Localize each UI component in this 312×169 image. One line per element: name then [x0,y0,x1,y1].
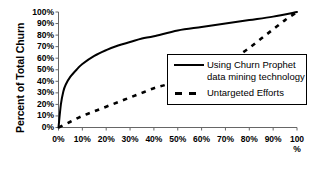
legend-solid-line-icon [174,59,204,71]
legend: Using Churn Prophet data mining technolo… [167,54,307,105]
legend-label-churn-prophet: Using Churn Prophet data mining technolo… [207,59,307,82]
churn-chart: Percent of Total Churn 0%10%20%30%40%50%… [0,0,312,169]
x-tick-label: 100 % [282,134,312,154]
x-axis-tick-labels: 0%10%20%30%40%50%60%70%80%90%100 % [0,130,312,169]
legend-label-untargeted: Untargeted Efforts [207,87,307,99]
legend-dashed-line-icon [174,87,204,99]
